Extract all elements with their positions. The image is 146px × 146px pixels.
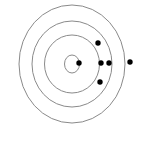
dot-5 xyxy=(97,79,102,84)
dot-6 xyxy=(127,59,132,64)
dot-4 xyxy=(106,60,111,65)
dot-2 xyxy=(95,40,100,45)
dots-group xyxy=(76,40,132,84)
target-diagram xyxy=(0,0,146,146)
ring-3 xyxy=(45,35,100,93)
dot-1 xyxy=(76,60,81,65)
concentric-rings-graphic xyxy=(0,0,146,146)
dot-3 xyxy=(98,60,103,65)
